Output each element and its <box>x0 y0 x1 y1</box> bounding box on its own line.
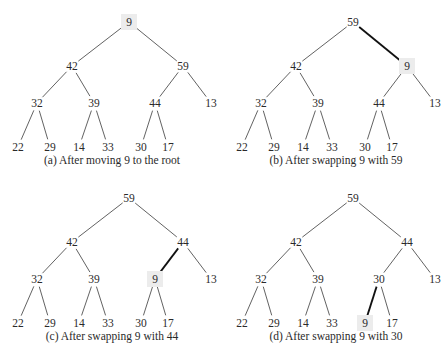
tree-edge <box>42 72 66 97</box>
caption-b: (b) After swapping 9 with 59 <box>224 154 448 166</box>
tree-edge <box>384 248 402 272</box>
node: 42 <box>66 236 78 248</box>
tree-edge <box>82 111 92 140</box>
tree-edge <box>359 203 401 237</box>
node: 22 <box>12 317 24 329</box>
caption-c: (c) After swapping 9 with 44 <box>0 330 224 342</box>
panel-a: 9425932394413222914333017 (a) After movi… <box>0 0 224 176</box>
tree-edge <box>157 111 165 140</box>
node: 32 <box>255 97 267 109</box>
tree-edge <box>381 287 389 316</box>
node: 59 <box>347 192 359 204</box>
tree-edge <box>76 249 90 272</box>
tree-edge <box>76 73 90 96</box>
tree-edge <box>39 287 47 316</box>
node: 39 <box>88 97 100 109</box>
node: 14 <box>297 141 309 153</box>
node: 44 <box>177 236 189 248</box>
node: 13 <box>429 97 441 109</box>
caption-a: (a) After moving 9 to the root <box>0 154 224 166</box>
node: 44 <box>373 97 385 109</box>
heap-diagram: 9425932394413222914333017 (a) After movi… <box>0 0 448 352</box>
tree-edge <box>320 287 329 316</box>
node: 22 <box>236 141 248 153</box>
node: 44 <box>149 97 161 109</box>
node-moving: 9 <box>126 16 132 28</box>
tree-edge <box>306 287 316 316</box>
node: 32 <box>255 273 267 285</box>
tree-edge <box>263 111 271 140</box>
tree-edge <box>320 111 329 140</box>
node-moving: 9 <box>404 60 410 72</box>
node: 17 <box>162 141 174 153</box>
node: 59 <box>123 192 135 204</box>
node: 17 <box>386 141 398 153</box>
tree-edge <box>412 248 430 272</box>
node: 44 <box>401 236 413 248</box>
node: 42 <box>290 60 302 72</box>
node: 22 <box>12 141 24 153</box>
tree-edge <box>300 249 314 272</box>
node: 17 <box>386 317 398 329</box>
tree-edge <box>412 72 430 96</box>
node: 33 <box>326 141 338 153</box>
tree-edge <box>306 111 316 140</box>
tree-edge <box>21 286 34 315</box>
tree-edge <box>39 111 47 140</box>
caption-d: (d) After swapping 9 with 30 <box>224 330 448 342</box>
tree-edge <box>302 27 346 61</box>
node: 13 <box>205 273 217 285</box>
tree-edge <box>143 287 152 316</box>
tree-edge <box>188 72 206 96</box>
tree-edge <box>96 287 105 316</box>
node: 29 <box>268 317 280 329</box>
tree-edge <box>245 110 258 139</box>
node-moving: 9 <box>152 273 158 285</box>
node: 39 <box>88 273 100 285</box>
node: 32 <box>31 273 43 285</box>
panel-b: 5942932394413222914333017 (b) After swap… <box>224 0 448 176</box>
node: 14 <box>73 141 85 153</box>
tree-edge <box>21 110 34 139</box>
tree-edge <box>78 27 122 61</box>
tree-edge <box>384 72 402 96</box>
tree-edge <box>300 73 314 96</box>
node: 14 <box>297 317 309 329</box>
node: 32 <box>31 97 43 109</box>
tree-edge <box>381 111 389 140</box>
node: 30 <box>135 317 147 329</box>
tree-edge <box>143 111 152 140</box>
node-moving: 9 <box>362 317 368 329</box>
tree-edge <box>42 248 66 273</box>
node: 29 <box>44 141 56 153</box>
tree-edge <box>263 287 271 316</box>
tree-edge <box>157 287 165 316</box>
node: 30 <box>359 141 371 153</box>
swap-edge <box>359 27 401 61</box>
tree-edge <box>188 248 206 272</box>
tree-edge <box>302 203 346 237</box>
node: 33 <box>326 317 338 329</box>
node: 59 <box>177 60 189 72</box>
tree-d: 5942443239301322291433917 <box>224 176 448 352</box>
node: 42 <box>66 60 78 72</box>
node: 33 <box>102 141 114 153</box>
node: 13 <box>205 97 217 109</box>
panel-c: 5942443239913222914333017 (c) After swap… <box>0 176 224 352</box>
node: 22 <box>236 317 248 329</box>
tree-edge <box>82 287 92 316</box>
node: 39 <box>312 273 324 285</box>
tree-edge <box>266 248 290 273</box>
panel-d: 5942443239301322291433917 (d) After swap… <box>224 176 448 352</box>
node: 14 <box>73 317 85 329</box>
tree-c: 5942443239913222914333017 <box>0 176 224 352</box>
tree-edge <box>78 203 122 237</box>
tree-edge <box>266 72 290 97</box>
tree-b: 5942932394413222914333017 <box>224 0 448 176</box>
node: 30 <box>135 141 147 153</box>
node: 33 <box>102 317 114 329</box>
swap-edge <box>160 248 178 272</box>
node: 30 <box>373 273 385 285</box>
tree-a: 9425932394413222914333017 <box>0 0 224 176</box>
swap-edge <box>367 287 376 316</box>
